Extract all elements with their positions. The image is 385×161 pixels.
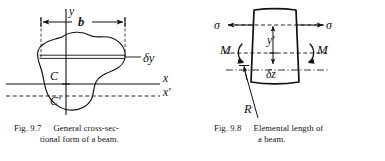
figure-9-7-drawing: y b δy C C′ x x′ — [0, 0, 193, 122]
figure-9-8-caption-line2: a beam. — [214, 134, 382, 145]
x-prime-axis-label: x′ — [162, 86, 171, 98]
moment-left-label: M — [219, 42, 232, 57]
figure-pair-page: y b δy C C′ x x′ — [0, 0, 385, 161]
centroid-prime-label: C′ — [50, 94, 61, 108]
figure-9-7-caption-line2: tional form of a beam. — [14, 134, 182, 145]
y-prime-label: y′ — [266, 34, 275, 47]
figure-9-8-number: Fig. 9.8 — [214, 123, 243, 133]
strip-thickness-label: δy — [143, 51, 155, 65]
figure-9-8-caption: Fig. 9.8 Elemental length of a beam. — [214, 123, 382, 145]
stress-left-label: σ — [214, 18, 221, 32]
centroid-label: C — [50, 69, 59, 83]
width-dimension-label: b — [78, 15, 84, 29]
y-axis-label: y — [68, 5, 75, 18]
figure-9-8-caption-line1: Elemental length of — [246, 123, 324, 133]
figure-9-7-caption-line1: General cross-sec- — [46, 123, 120, 133]
figure-9-8-drawing: σ σ M M y′ δz R — [192, 0, 385, 122]
radius-label: R — [243, 102, 252, 116]
radius-arrow — [244, 66, 247, 80]
element-length-label: δz — [266, 68, 276, 80]
moment-right-label: M — [316, 42, 329, 57]
stress-right-label: σ — [326, 18, 333, 32]
figure-9-7-number: Fig. 9.7 — [14, 123, 43, 133]
figure-9-7-caption: Fig. 9.7 General cross-sec- tional form … — [14, 123, 182, 145]
x-axis-label: x — [162, 72, 169, 84]
